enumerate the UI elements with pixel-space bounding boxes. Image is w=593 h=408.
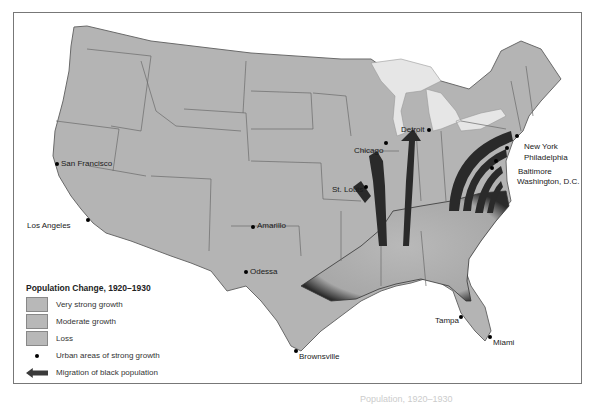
city-label: Detroit bbox=[401, 125, 425, 134]
legend-label: Migration of black population bbox=[56, 368, 158, 377]
map-caption: Population, 1920–1930 bbox=[360, 394, 453, 404]
legend-swatch bbox=[26, 314, 48, 329]
migration-arrow-icon bbox=[26, 367, 48, 379]
city-dot-icon bbox=[244, 270, 248, 274]
legend-item-migration: Migration of black population bbox=[26, 364, 226, 381]
legend-label: Loss bbox=[56, 334, 73, 343]
city-dot-icon bbox=[488, 335, 492, 339]
legend-item-very-strong-growth: Very strong growth bbox=[26, 296, 226, 313]
legend-label: Moderate growth bbox=[56, 317, 116, 326]
city-label: Miami bbox=[493, 338, 514, 347]
city-label: Baltimore bbox=[518, 167, 552, 176]
city-dot-icon bbox=[505, 146, 509, 150]
city-label: Amarillo bbox=[257, 221, 286, 230]
city-dot-icon bbox=[459, 315, 463, 319]
city-dot-icon bbox=[251, 225, 255, 229]
city-dot-icon bbox=[86, 218, 90, 222]
legend-label: Urban areas of strong growth bbox=[56, 351, 160, 360]
legend-item-loss: Loss bbox=[26, 330, 226, 347]
city-label: Tampa bbox=[435, 316, 459, 325]
city-dot-icon bbox=[490, 166, 494, 170]
city-label: Philadelphia bbox=[524, 153, 568, 162]
city-label: Brownsville bbox=[299, 352, 339, 361]
legend-item-urban-areas: Urban areas of strong growth bbox=[26, 347, 226, 364]
urban-dot-icon bbox=[26, 354, 48, 358]
city-label: Los Angeles bbox=[27, 221, 71, 230]
city-label: Washington, D.C. bbox=[517, 177, 579, 186]
city-dot-icon bbox=[427, 128, 431, 132]
city-dot-icon bbox=[55, 162, 59, 166]
city-label: San Francisco bbox=[61, 159, 112, 168]
city-dot-icon bbox=[364, 185, 368, 189]
legend-item-moderate-growth: Moderate growth bbox=[26, 313, 226, 330]
legend-swatch bbox=[26, 331, 48, 346]
map-legend: Population Change, 1920–1930 Very strong… bbox=[26, 283, 226, 381]
legend-swatch bbox=[26, 297, 48, 312]
city-dot-icon bbox=[494, 159, 498, 163]
city-dot-icon bbox=[384, 141, 388, 145]
legend-label: Very strong growth bbox=[56, 300, 123, 309]
city-label: Odessa bbox=[250, 267, 278, 276]
city-label: Chicago bbox=[354, 146, 383, 155]
legend-title: Population Change, 1920–1930 bbox=[26, 283, 226, 293]
city-dot-icon bbox=[515, 134, 519, 138]
city-label: St. Louis bbox=[332, 185, 363, 194]
city-label: New York bbox=[524, 142, 558, 151]
city-dot-icon bbox=[294, 349, 298, 353]
